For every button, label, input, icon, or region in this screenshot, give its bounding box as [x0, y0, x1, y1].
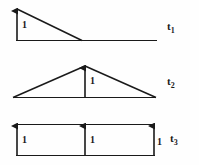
row-3-time-label: t3: [170, 132, 178, 147]
row-2-time-label: t2: [167, 75, 175, 90]
row-3-amplitude-label-left: 1: [22, 135, 27, 145]
impulse-response-figure: 1 1 1 1 1 t1 t2 t3: [0, 0, 199, 165]
row-3-amplitude-label-right: 1: [157, 137, 162, 147]
row-1-time-label: t1: [167, 20, 175, 35]
row-1-time-subscript: 1: [171, 26, 175, 35]
row-1-graphic: [16, 9, 157, 41]
row-3-time-subscript: 3: [174, 138, 178, 147]
row-3-graphic: [16, 125, 155, 156]
row-3-amplitude-label-center: 1: [90, 135, 95, 145]
row-2-graphic: [13, 66, 156, 98]
row-2-right-slope: [85, 66, 156, 98]
row-2-left-slope: [13, 66, 85, 98]
row-2-time-subscript: 2: [171, 81, 175, 90]
row-2-amplitude-label: 1: [90, 76, 95, 86]
row-1-amplitude-label: 1: [22, 20, 27, 30]
